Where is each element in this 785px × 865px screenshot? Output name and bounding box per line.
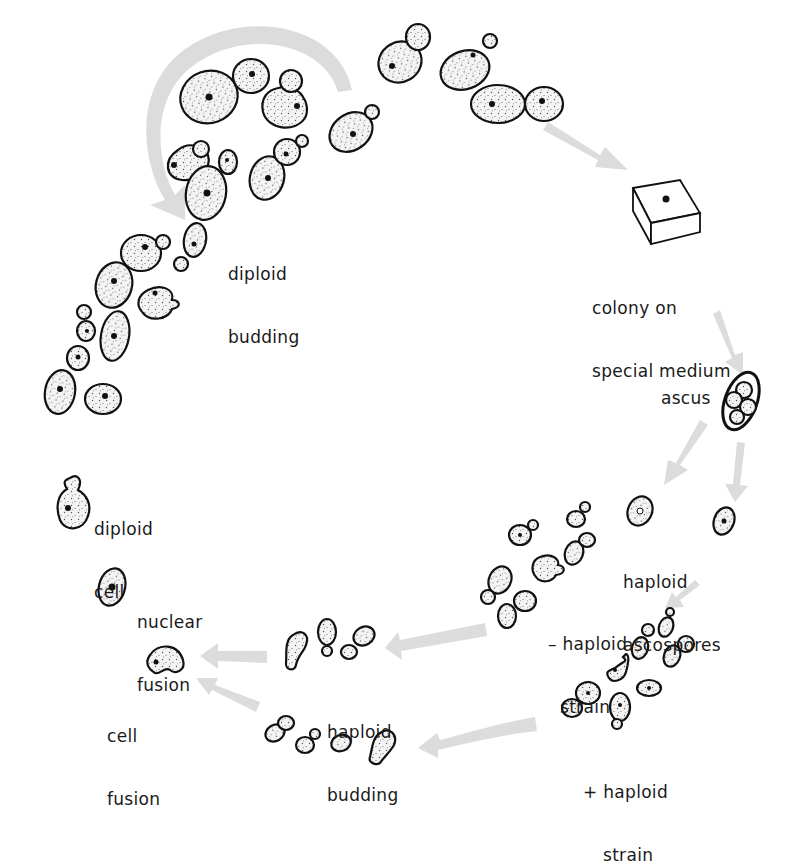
label-line: cell — [107, 726, 160, 747]
label-line: strain — [583, 845, 668, 865]
label-ascus: ascus — [661, 388, 711, 409]
arrow-minus-to-budding — [385, 623, 487, 660]
label-line: fusion — [137, 675, 203, 696]
label-line: fusion — [107, 789, 160, 810]
arrow-plus-to-budding — [418, 717, 537, 758]
label-line: diploid — [94, 519, 153, 540]
label-line: budding — [228, 327, 300, 348]
arrow-to-colony — [543, 122, 628, 170]
label-diploid-budding: diploid budding — [228, 222, 300, 369]
label-haploid-ascospores: haploid ascospores — [623, 530, 721, 677]
arrow-to-spore-right — [725, 442, 748, 502]
arrow-budding-to-fusion-lower — [196, 678, 260, 712]
label-line: + haploid — [583, 782, 668, 803]
curved-budding-arrow — [146, 26, 352, 220]
diploid-budding-cells — [41, 24, 563, 416]
arrow-to-spore-left — [664, 420, 708, 485]
label-colony: colony on special medium — [592, 256, 731, 403]
label-haploid-budding: haploid budding — [327, 680, 399, 827]
label-plus-haploid-strain: + haploid strain — [583, 740, 668, 865]
diploid-cell-icon — [58, 476, 90, 528]
label-diploid-cell: diploid cell — [94, 477, 153, 624]
colony-block-icon — [633, 180, 700, 244]
label-line: budding — [327, 785, 399, 806]
label-line: haploid — [327, 722, 399, 743]
label-line: special medium — [592, 361, 731, 382]
label-line: – haploid — [548, 634, 627, 655]
label-line: diploid — [228, 264, 300, 285]
label-line: cell — [94, 582, 153, 603]
arrow-budding-to-fusion-upper — [200, 643, 267, 669]
label-line: ascospores — [623, 635, 721, 656]
label-line: colony on — [592, 298, 731, 319]
label-line: strain — [548, 697, 627, 718]
label-minus-haploid-strain: – haploid strain — [548, 592, 627, 739]
label-line: haploid — [623, 572, 721, 593]
